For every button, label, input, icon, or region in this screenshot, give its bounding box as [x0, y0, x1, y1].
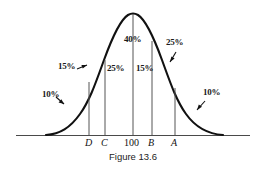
axis-tick-label-100: 100 [124, 138, 139, 148]
percent-label-left-outer: 10% [42, 90, 59, 99]
figure-caption: Figure 13.6 [0, 152, 266, 162]
bell-curve-graphic [0, 0, 266, 175]
percent-label-right-outer: 10% [203, 88, 220, 97]
figure-13-6: 10% 15% 25% 40% 15% 25% 10% D C 100 B A … [0, 0, 266, 175]
normal-curve-path [46, 14, 223, 135]
axis-tick-label-d: D [85, 138, 92, 148]
percent-label-left-inner: 15% [58, 62, 75, 71]
percent-label-peak: 40% [124, 35, 141, 44]
leader-arrow-right-outer [197, 101, 205, 110]
axis-tick-label-b: B [148, 138, 154, 148]
leader-arrow-right-inner [170, 52, 176, 62]
axis-tick-label-a: A [171, 138, 177, 148]
axis-tick-label-c: C [101, 138, 108, 148]
percent-label-right-inner: 25% [166, 38, 183, 47]
percent-label-100-to-b: 15% [136, 64, 153, 73]
leader-arrow-left-inner [77, 65, 87, 69]
percent-label-c-to-100: 25% [107, 64, 124, 73]
